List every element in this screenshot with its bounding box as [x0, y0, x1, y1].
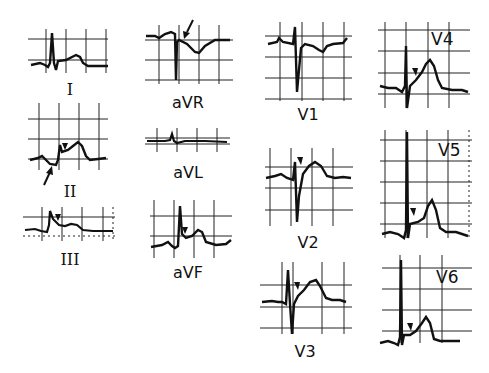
- lead-V6-panel: V6: [380, 255, 475, 345]
- lead-V5-arrowhead-icon: [410, 208, 416, 216]
- lead-II-arrow-icon: [44, 166, 53, 185]
- lead-V5-label: V5: [438, 140, 460, 160]
- lead-II-label: II: [55, 182, 85, 201]
- lead-V2-label: V2: [293, 233, 323, 252]
- lead-III-trace: [23, 205, 118, 245]
- lead-V4-panel: V4: [378, 22, 473, 112]
- lead-aVL-label: aVL: [168, 163, 208, 182]
- lead-I-trace: [28, 25, 113, 75]
- lead-V5-panel: V5: [380, 130, 475, 242]
- lead-III-label: III: [55, 250, 85, 269]
- lead-V1-panel: [265, 22, 355, 102]
- lead-aVR-arrow-icon: [183, 20, 193, 39]
- lead-aVR-panel: [145, 20, 235, 85]
- lead-V1-trace: [265, 22, 355, 102]
- lead-II-panel: [28, 100, 113, 180]
- lead-V6-trace: [380, 255, 475, 345]
- lead-V2-trace: [265, 148, 355, 228]
- lead-aVL-trace: [145, 125, 235, 155]
- lead-aVR-trace: [145, 20, 235, 85]
- lead-aVL-panel: [145, 125, 235, 155]
- lead-III-panel: [23, 205, 118, 245]
- lead-V4-label: V4: [431, 29, 453, 49]
- lead-aVF-label: aVF: [168, 263, 208, 282]
- lead-aVR-label: aVR: [168, 93, 208, 112]
- lead-V3-label: V3: [290, 342, 320, 361]
- lead-I-panel: [28, 25, 113, 75]
- lead-V2-panel: [265, 148, 355, 228]
- lead-II-arrowhead-icon: [62, 143, 68, 150]
- lead-V1-label: V1: [293, 105, 323, 124]
- lead-V4-arrowhead-icon: [412, 68, 418, 76]
- lead-V2-arrowhead-icon: [297, 157, 303, 165]
- lead-V3-trace: [260, 262, 355, 337]
- lead-V3-panel: [260, 262, 355, 337]
- lead-V3-arrowhead-icon: [294, 282, 300, 290]
- lead-aVF-panel: [150, 200, 235, 260]
- lead-II-trace: [28, 100, 113, 180]
- lead-V5-trace: [380, 130, 475, 242]
- lead-I-label: I: [55, 80, 85, 99]
- lead-V6-label: V6: [436, 267, 458, 287]
- lead-aVF-trace: [150, 200, 235, 260]
- lead-V4-trace: [378, 22, 473, 112]
- lead-V6-arrowhead-icon: [407, 323, 413, 331]
